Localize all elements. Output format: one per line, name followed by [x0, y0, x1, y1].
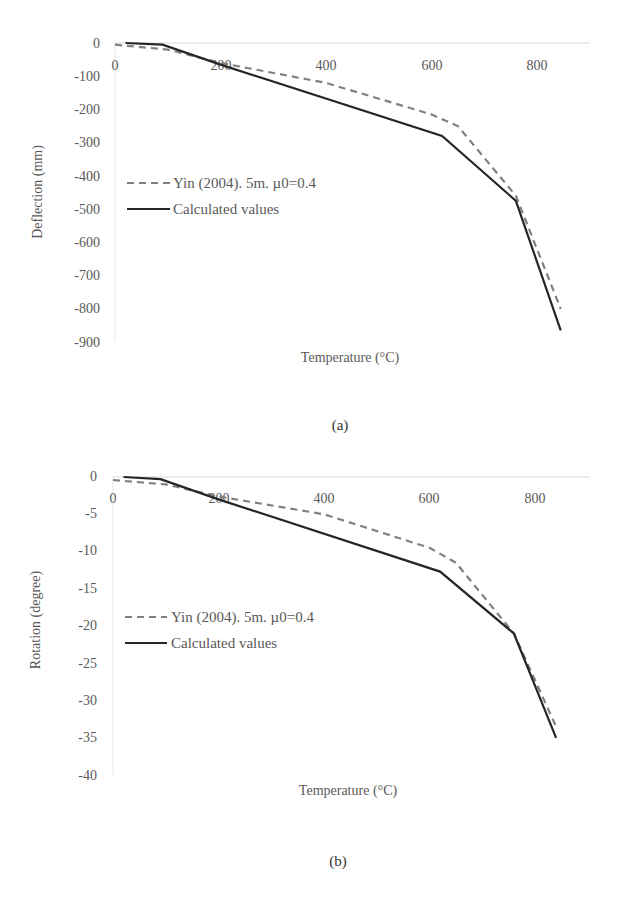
x-axis-title: Temperature (°C): [299, 783, 398, 799]
y-tick: -20: [78, 618, 97, 633]
y-tick: -40: [78, 768, 97, 783]
x-tick: 400: [314, 491, 335, 506]
y-tick: -200: [74, 102, 100, 117]
series-yin-2004-line: [113, 480, 556, 727]
y-tick: -500: [74, 202, 100, 217]
x-tick: 600: [422, 58, 443, 73]
x-tick-labels: 0 200 400 600 800: [110, 491, 546, 506]
legend-label-calculated: Calculated values: [171, 635, 277, 651]
y-tick: -300: [74, 135, 100, 150]
x-tick: 800: [525, 491, 546, 506]
legend: Yin (2004). 5m. µ0=0.4 Calculated values: [125, 609, 314, 651]
x-tick: 800: [527, 58, 548, 73]
y-tick: -700: [74, 268, 100, 283]
figure-caption-b: (b): [329, 853, 347, 870]
y-tick: -100: [74, 69, 100, 84]
deflection-chart: 0 -100 -200 -300 -400 -500 -600 -700 -80…: [30, 36, 590, 434]
legend-label-yin: Yin (2004). 5m. µ0=0.4: [171, 609, 314, 626]
x-tick: 400: [316, 58, 337, 73]
legend: Yin (2004). 5m. µ0=0.4 Calculated values: [127, 175, 316, 217]
legend-label-yin: Yin (2004). 5m. µ0=0.4: [173, 175, 316, 192]
y-tick: -600: [74, 235, 100, 250]
figure-caption-a: (a): [332, 417, 349, 434]
y-tick: -900: [74, 335, 100, 350]
x-tick: 0: [112, 58, 119, 73]
y-tick: -30: [78, 693, 97, 708]
y-tick: -400: [74, 169, 100, 184]
rotation-chart: 0 -5 -10 -15 -20 -25 -30 -35 -40 0 200 4…: [28, 469, 590, 870]
y-tick-labels: 0 -5 -10 -15 -20 -25 -30 -35 -40: [78, 469, 97, 783]
legend-label-calculated: Calculated values: [173, 201, 279, 217]
x-tick-labels: 0 200 400 600 800: [112, 58, 548, 73]
y-tick: 0: [93, 36, 100, 51]
figure-canvas: 0 -100 -200 -300 -400 -500 -600 -700 -80…: [0, 0, 619, 904]
y-tick: -800: [74, 301, 100, 316]
y-tick: -25: [78, 656, 97, 671]
y-tick: 0: [90, 469, 97, 484]
y-tick: -5: [85, 506, 97, 521]
x-tick: 600: [419, 491, 440, 506]
y-axis-title: Deflection (mm): [30, 145, 46, 239]
y-axis-title: Rotation (degree): [28, 570, 44, 669]
y-tick: -15: [78, 581, 97, 596]
y-tick: -10: [78, 543, 97, 558]
x-tick: 0: [110, 491, 117, 506]
y-tick-labels: 0 -100 -200 -300 -400 -500 -600 -700 -80…: [74, 36, 100, 350]
y-tick: -35: [78, 730, 97, 745]
x-axis-title: Temperature (°C): [301, 350, 400, 366]
